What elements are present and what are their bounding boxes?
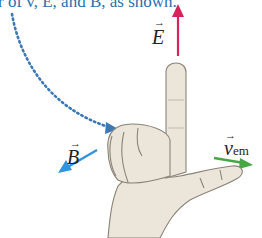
right-hand-rule-diagram <box>0 0 262 238</box>
e-field-arrowhead <box>172 4 184 17</box>
b-field-label: B <box>67 146 79 169</box>
dotted-guide-arrow <box>12 14 112 128</box>
e-field-label: E <box>152 26 164 49</box>
velocity-subscript: em <box>233 143 249 158</box>
hand-illustration <box>108 63 243 238</box>
velocity-symbol: v <box>224 137 233 159</box>
velocity-label: vem <box>224 137 249 160</box>
